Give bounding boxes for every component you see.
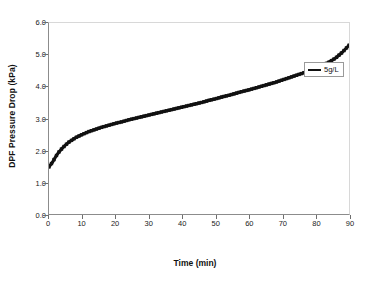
y-axis-tick-label: 5.0 [6, 50, 46, 59]
legend-label-5g-l: 5g/L [324, 65, 339, 74]
plot-area [48, 22, 350, 215]
x-axis-tick-label: 50 [199, 219, 233, 228]
y-axis-tick-label: 2.0 [6, 146, 46, 155]
data-plot-svg [49, 23, 349, 214]
x-axis-tick-label: 40 [165, 219, 199, 228]
series-marker [55, 154, 58, 157]
series-marker [50, 162, 53, 165]
y-axis-tick-label: 3.0 [6, 114, 46, 123]
series-marker [347, 44, 349, 47]
x-axis-tick-label: 70 [266, 219, 300, 228]
x-axis-tick-mark [182, 215, 183, 219]
x-axis-tick-mark [149, 215, 150, 219]
y-axis-tick-label: 1.0 [6, 178, 46, 187]
legend-line-swatch [308, 69, 321, 71]
x-axis-title: Time (min) [40, 258, 350, 268]
x-axis-tick-label: 60 [232, 219, 266, 228]
series-marker [52, 158, 55, 161]
y-axis-tick-label: 6.0 [6, 18, 46, 27]
x-axis-tick-mark [216, 215, 217, 219]
x-axis-tick-mark [82, 215, 83, 219]
x-axis-tick-mark [283, 215, 284, 219]
x-axis-tick-label: 90 [333, 219, 367, 228]
series-marker [57, 150, 60, 153]
x-axis-tick-mark [249, 215, 250, 219]
x-axis-tick-label: 20 [98, 219, 132, 228]
x-axis-tick-label: 80 [299, 219, 333, 228]
chart-container: DPF Pressure Drop (kPa) 0.01.02.03.04.05… [0, 0, 369, 282]
y-axis-tick-label: 4.0 [6, 82, 46, 91]
x-axis-tick-label: 10 [65, 219, 99, 228]
x-axis-tick-mark [350, 215, 351, 219]
x-axis-tick-mark [115, 215, 116, 219]
x-axis-tick-mark [316, 215, 317, 219]
chart-legend: 5g/L [304, 62, 344, 77]
series-marker [49, 165, 51, 168]
x-axis-tick-label: 0 [31, 219, 65, 228]
x-axis-tick-label: 30 [132, 219, 166, 228]
x-axis-tick-mark [48, 215, 49, 219]
